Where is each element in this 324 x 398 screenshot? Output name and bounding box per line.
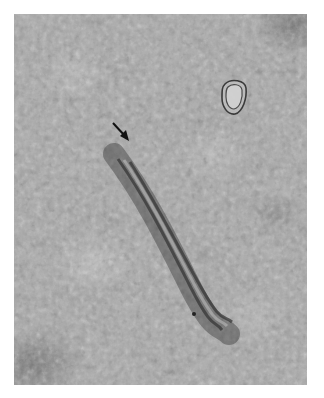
- membrane-vesicle: [219, 78, 249, 118]
- micrograph-image: [14, 14, 307, 385]
- elongated-fibrous-structure: [14, 14, 307, 385]
- arrow-icon: [109, 119, 135, 145]
